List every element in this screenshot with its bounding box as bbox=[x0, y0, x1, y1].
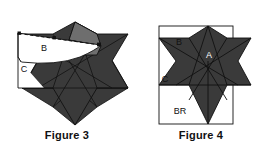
figure-4-block: B A C BR Figure 4 bbox=[134, 0, 268, 155]
figure-4-label-a: A bbox=[206, 50, 212, 60]
figure-3-diagram: B C bbox=[0, 0, 134, 128]
figure-3-label-c: C bbox=[21, 64, 28, 74]
figure-4-label-c: C bbox=[162, 74, 169, 84]
figure-3-caption: Figure 3 bbox=[0, 129, 134, 141]
figure-3-label-b: B bbox=[41, 43, 47, 53]
figure-4-label-br: BR bbox=[174, 106, 187, 116]
figure-4-caption: Figure 4 bbox=[134, 129, 268, 141]
figure-pair-page: B C Figure 3 bbox=[0, 0, 268, 155]
figure-4-diagram: B A C BR bbox=[134, 0, 268, 128]
figure-4-label-b: B bbox=[176, 37, 182, 47]
figure-3-block: B C Figure 3 bbox=[0, 0, 134, 155]
